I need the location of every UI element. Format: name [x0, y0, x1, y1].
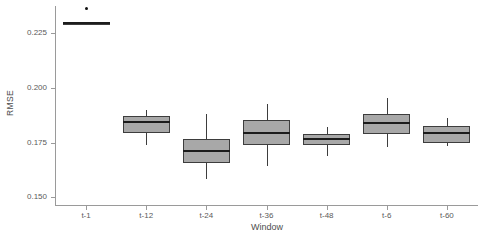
- y-axis-title-text: RMSE: [5, 90, 15, 116]
- median-line-t-12: [123, 121, 170, 123]
- y-tick-label: 0.150: [27, 192, 47, 201]
- x-tick-label: t-6: [382, 211, 391, 220]
- whisker-lower: [146, 133, 147, 145]
- x-tick-label: t-60: [440, 211, 454, 220]
- whisker-lower: [267, 145, 268, 166]
- y-tick-label: 0.175: [27, 138, 47, 147]
- whisker-upper: [267, 104, 268, 119]
- x-tick-mark: [86, 206, 87, 210]
- median-line-t-24: [183, 150, 230, 152]
- whisker-upper: [206, 114, 207, 138]
- y-axis-title: RMSE: [2, 0, 18, 205]
- x-tick-label: t-12: [139, 211, 153, 220]
- box-t-6: [363, 114, 410, 134]
- median-line-t-1: [63, 22, 110, 24]
- y-tick-label: 0.200: [27, 83, 47, 92]
- x-axis-title: Window: [55, 222, 479, 232]
- x-tick-mark: [206, 206, 207, 210]
- x-tick-label: t-24: [199, 211, 213, 220]
- x-tick-label: t-48: [320, 211, 334, 220]
- whisker-upper: [387, 98, 388, 114]
- x-tick-label: t-1: [81, 211, 90, 220]
- y-tick-mark: [51, 197, 55, 198]
- whisker-lower: [327, 145, 328, 155]
- box-t-60: [423, 126, 470, 142]
- x-tick-label: t-36: [260, 211, 274, 220]
- x-tick-mark: [387, 206, 388, 210]
- whisker-lower: [206, 163, 207, 178]
- y-tick-mark: [51, 33, 55, 34]
- y-tick-mark: [51, 143, 55, 144]
- median-line-t-48: [303, 138, 350, 140]
- x-tick-mark: [146, 206, 147, 210]
- outlier-point: [85, 7, 88, 10]
- whisker-upper: [327, 127, 328, 134]
- x-tick-mark: [327, 206, 328, 210]
- median-line-t-6: [363, 122, 410, 124]
- y-tick-mark: [51, 88, 55, 89]
- box-t-12: [123, 116, 170, 132]
- x-tick-mark: [267, 206, 268, 210]
- boxplot-chart: RMSE 0.1500.1750.2000.225 t-1t-12t-24t-3…: [0, 0, 479, 242]
- whisker-lower: [387, 134, 388, 147]
- whisker-upper: [146, 110, 147, 117]
- median-line-t-36: [243, 132, 290, 134]
- whisker-lower: [447, 143, 448, 146]
- y-tick-label: 0.225: [27, 28, 47, 37]
- median-line-t-60: [423, 132, 470, 134]
- x-tick-mark: [447, 206, 448, 210]
- whisker-upper: [447, 118, 448, 126]
